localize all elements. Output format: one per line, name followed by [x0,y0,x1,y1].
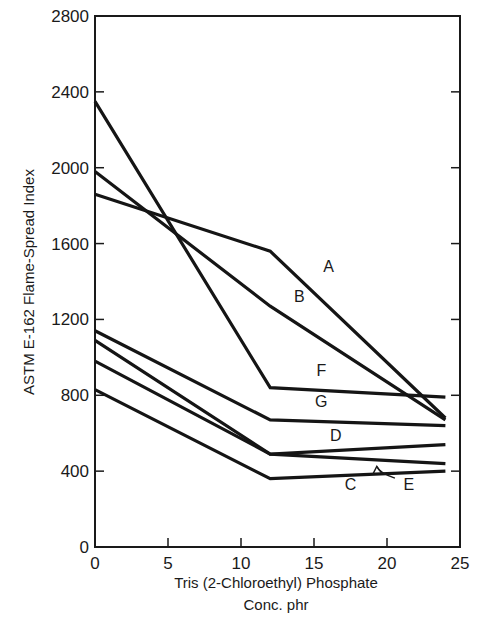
y-tick-label: 0 [80,538,89,557]
series-line-C [95,390,445,479]
series-lines [95,101,445,478]
series-label-C: C [345,476,357,493]
series-line-G [95,331,445,426]
series-label-B: B [294,288,305,305]
x-tick-label: 5 [163,554,172,573]
y-tick-label: 400 [61,462,89,481]
x-tick-label: 15 [305,554,324,573]
x-tick-label: 10 [232,554,251,573]
x-tick-label: 0 [90,554,99,573]
x-axis-subtitle: Conc. phr [243,596,308,613]
y-tick-label: 1200 [51,310,89,329]
series-label-D: D [330,427,342,444]
x-tick-label: 20 [378,554,397,573]
y-tick-label: 800 [61,386,89,405]
y-tick-label: 2000 [51,159,89,178]
y-tick-label: 1600 [51,235,89,254]
y-axis-title: ASTM E-162 Flame-Spread Index [20,169,37,395]
plot-frame [95,16,460,547]
series-label-A: A [323,258,334,275]
series-label-E: E [404,476,415,493]
y-tick-label: 2800 [51,7,89,26]
flame-spread-chart: 0400800120016002000240028000510152025 AB… [0,0,481,630]
series-line-B [95,172,445,420]
x-axis-title: Tris (2-Chloroethyl) Phosphate [174,574,378,591]
series-label-F: F [316,362,326,379]
y-tick-label: 2400 [51,83,89,102]
series-line-F [95,101,445,397]
x-tick-label: 25 [451,554,470,573]
series-label-G: G [315,393,327,410]
